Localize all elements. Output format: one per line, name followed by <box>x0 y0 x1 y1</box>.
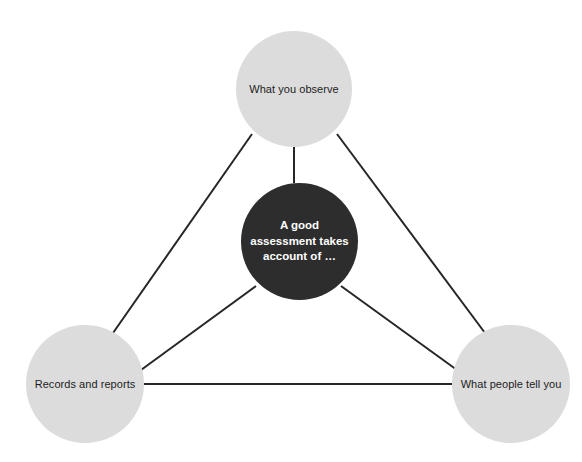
node-label-what-people-tell-you: What people tell you <box>457 378 566 391</box>
node-records-and-reports[interactable]: Records and reports <box>26 325 144 443</box>
node-what-you-observe[interactable]: What you observe <box>236 31 352 147</box>
edge-center-to-records <box>141 286 256 370</box>
node-label-center: A good assessment takes account of … <box>244 218 354 265</box>
edge-observe-to-people <box>337 134 485 333</box>
edge-center-to-people <box>341 286 457 370</box>
diagram-canvas: What you observe A good assessment takes… <box>0 0 582 462</box>
node-label-what-you-observe: What you observe <box>245 83 342 96</box>
node-label-records-and-reports: Records and reports <box>31 378 140 391</box>
node-center-a-good-assessment[interactable]: A good assessment takes account of … <box>241 183 358 300</box>
node-what-people-tell-you[interactable]: What people tell you <box>452 325 570 443</box>
